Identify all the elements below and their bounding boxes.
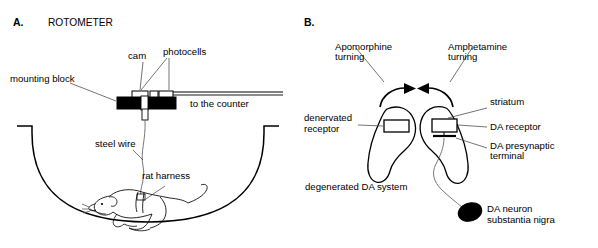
- leader-photocells-left: [141, 58, 167, 90]
- label-cam: cam: [128, 50, 146, 61]
- da-receptor-box: [432, 119, 457, 132]
- leader-steel-wire: [133, 150, 143, 160]
- label-da-receptor: DA receptor: [490, 121, 541, 132]
- apomorphine-arrow-head: [404, 83, 416, 94]
- label-da-neuron-line2: substantia nigra: [487, 214, 555, 225]
- label-striatum: striatum: [490, 96, 524, 107]
- label-to-the-counter: to the counter: [190, 98, 249, 109]
- cam-slot: [141, 96, 148, 110]
- diagram-canvas: A. ROTOMETER: [0, 0, 598, 248]
- label-da-neuron-line1: DA neuron: [487, 203, 532, 214]
- panel-b: B.: [304, 16, 555, 225]
- da-neuron-soma: [456, 200, 484, 225]
- apomorphine-turn-arc: [380, 88, 405, 107]
- rat-eye: [101, 203, 103, 205]
- panel-b-letter: B.: [304, 16, 315, 28]
- label-rat-harness: rat harness: [142, 170, 190, 181]
- label-steel-wire: steel wire: [95, 138, 136, 149]
- panel-a-title: ROTOMETER: [48, 17, 113, 28]
- striatum-left-denervated: [368, 107, 416, 182]
- amphetamine-turn-arc: [428, 88, 453, 107]
- nigrostriatal-axon: [434, 138, 463, 208]
- rat-drawing: [82, 184, 207, 230]
- label-apomorphine-line2: turning: [335, 51, 364, 62]
- denervated-receptor-box: [384, 120, 409, 132]
- label-da-presynaptic-line2: terminal: [490, 150, 524, 161]
- amphetamine-arrow-head: [417, 83, 429, 94]
- panel-a: A. ROTOMETER: [10, 16, 283, 231]
- label-amphetamine-line2: turning: [448, 51, 477, 62]
- panel-a-letter: A.: [13, 16, 24, 28]
- leader-da-receptor: [458, 125, 487, 127]
- label-photocells: photocells: [163, 46, 206, 57]
- leader-cam: [140, 62, 143, 90]
- striatum-right: [420, 107, 468, 184]
- leader-mounting-block: [70, 83, 116, 101]
- label-degenerated-da-system: degenerated DA system: [305, 181, 407, 192]
- label-denervated-receptor-line1: denervated: [304, 112, 352, 123]
- label-denervated-receptor-line2: receptor: [304, 123, 340, 134]
- cam-shaft: [142, 109, 148, 120]
- leader-da-presynaptic: [456, 138, 487, 148]
- label-mounting-block: mounting block: [10, 73, 75, 84]
- figure-container: A. ROTOMETER: [0, 0, 598, 248]
- leader-denervated-receptor: [358, 125, 383, 126]
- leader-striatum: [448, 108, 487, 118]
